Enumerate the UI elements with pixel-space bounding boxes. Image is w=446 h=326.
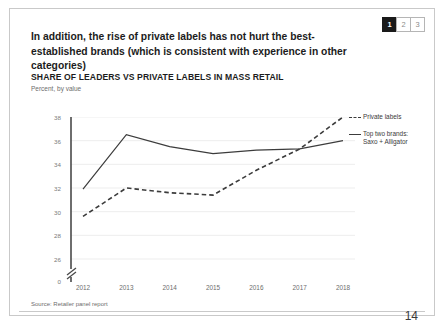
page-indicator[interactable]: 123 bbox=[383, 17, 425, 32]
chart-svg bbox=[65, 117, 355, 282]
source-note: Source: Retailer panel report bbox=[31, 301, 108, 307]
page-indicator-2[interactable]: 2 bbox=[396, 17, 411, 32]
y-axis-label: 26 bbox=[43, 256, 61, 263]
y-axis-label: 28 bbox=[43, 232, 61, 239]
y-axis-label: 34 bbox=[43, 161, 61, 168]
x-axis-label: 2012 bbox=[76, 284, 90, 291]
x-axis-label: 2017 bbox=[293, 284, 307, 291]
chart-subkicker: Percent, by value bbox=[31, 85, 81, 92]
footer-divider bbox=[19, 311, 425, 312]
x-axis-label: 2013 bbox=[119, 284, 133, 291]
y-axis-label: 30 bbox=[43, 208, 61, 215]
slide: 123 In addition, the rise of private lab… bbox=[9, 8, 435, 316]
page-title: In addition, the rise of private labels … bbox=[31, 30, 361, 74]
x-axis-label: 2015 bbox=[206, 284, 220, 291]
legend-label-line1: Top two brands: bbox=[363, 130, 408, 138]
legend-entry-1: Private labels bbox=[363, 113, 401, 121]
legend-label-line2: Saxo + Alligator bbox=[363, 138, 408, 146]
series-1 bbox=[83, 135, 343, 189]
y-axis-label: 32 bbox=[43, 185, 61, 192]
legend-swatch-2 bbox=[349, 134, 361, 135]
y-axis-label-zero: 0 bbox=[43, 278, 61, 285]
series-2 bbox=[83, 117, 343, 216]
y-axis-label: 38 bbox=[43, 114, 61, 121]
page-indicator-3[interactable]: 3 bbox=[410, 17, 425, 32]
legend-label-line1: Private labels bbox=[363, 113, 401, 121]
page-number: 14 bbox=[405, 309, 418, 323]
page-indicator-1[interactable]: 1 bbox=[382, 17, 397, 32]
x-axis-label: 2014 bbox=[163, 284, 177, 291]
chart-kicker: SHARE OF LEADERS VS PRIVATE LABELS IN MA… bbox=[31, 72, 284, 82]
legend-swatch-1 bbox=[349, 117, 361, 118]
x-axis-label: 2018 bbox=[336, 284, 350, 291]
legend-entry-2: Top two brands:Saxo + Alligator bbox=[363, 130, 408, 147]
line-chart: 383634323028260 201220132014201520162017… bbox=[31, 97, 421, 297]
x-axis-label: 2016 bbox=[249, 284, 263, 291]
y-axis-label: 36 bbox=[43, 137, 61, 144]
y-axis-ticks: 383634323028260 bbox=[31, 117, 61, 282]
plot-area bbox=[65, 117, 355, 282]
